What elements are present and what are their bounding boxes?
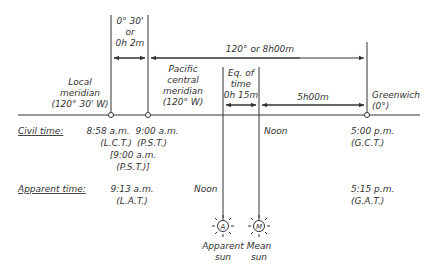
civil-bracket-time: [9:00 a.m. — [110, 150, 157, 160]
civil-pacific-abbr: (P.S.T.) — [137, 138, 167, 148]
time-diagram: 0° 30' or 0h 2m 120° or 8h00m Local meri… — [0, 0, 437, 276]
apparent-time-label: Apparent time: — [17, 184, 86, 194]
local-meridian-label-3: (120° 30' W) — [51, 99, 108, 109]
apparent-sun-label-2: sun — [215, 252, 231, 262]
local-meridian-label-2: meridian — [60, 88, 100, 98]
span-label: 120° or 8h00m — [226, 44, 294, 54]
pacific-label-3: meridian — [163, 86, 203, 96]
greenwich-label-1: Greenwich — [372, 90, 420, 100]
eq-time-label-1: Eq. of — [228, 68, 256, 78]
civil-greenwich-abbr: (G.C.T.) — [351, 138, 384, 148]
apparent-sun-label-1: Apparent — [201, 241, 244, 251]
pacific-meridian-node — [146, 113, 151, 118]
pacific-label-2: central — [167, 75, 199, 85]
apparent-sun-noon: Noon — [194, 184, 218, 194]
apparent-local-abbr: (L.A.T.) — [116, 196, 147, 206]
local-meridian-node — [109, 113, 114, 118]
offset-or: or — [125, 27, 136, 37]
eq-time-label-2: time — [231, 79, 252, 89]
greenwich-node — [365, 113, 370, 118]
svg-text:A: A — [220, 223, 226, 231]
apparent-greenwich-abbr: (G.A.T.) — [351, 196, 384, 206]
pacific-label-1: Pacific — [168, 64, 197, 74]
civil-pacific-time: 9:00 a.m. — [135, 126, 178, 136]
civil-local-time: 8:58 a.m. — [86, 126, 129, 136]
civil-greenwich-time: 5:00 p.m. — [351, 126, 394, 136]
civil-mean-noon: Noon — [264, 126, 288, 136]
offset-time: 0h 2m — [116, 38, 145, 48]
mean-greenwich-label: 5h00m — [297, 92, 329, 102]
mean-sun-label-1: Mean — [247, 241, 272, 251]
mean-sun-label-2: sun — [251, 252, 267, 262]
apparent-local-time: 9:13 a.m. — [110, 184, 153, 194]
svg-text:M: M — [256, 223, 262, 231]
apparent-greenwich-time: 5:15 p.m. — [351, 184, 394, 194]
civil-bracket-abbr: (P.S.T.)] — [116, 162, 150, 172]
greenwich-label-2: (0°) — [372, 101, 389, 111]
pacific-label-4: (120° W) — [163, 97, 203, 107]
local-meridian-label-1: Local — [68, 77, 92, 87]
eq-time-label-3: 0h 15m — [224, 90, 259, 100]
offset-degrees: 0° 30' — [116, 16, 143, 26]
civil-time-label: Civil time: — [18, 126, 63, 136]
civil-local-abbr: (L.C.T.) — [100, 138, 131, 148]
